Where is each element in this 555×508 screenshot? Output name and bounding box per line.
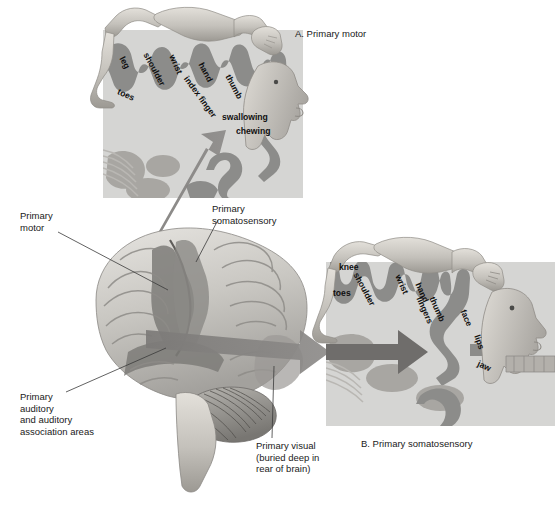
panel-a-label-swallowing: swallowing (222, 112, 268, 122)
panel-a-label-chewing: chewing (236, 126, 270, 136)
panel-b-label-knee: knee (339, 262, 359, 272)
figure-canvas: A. Primary motor B. Primary somatosensor… (0, 0, 555, 508)
panel-a-eye (274, 80, 278, 84)
panel-b-label-toes: toes (333, 288, 351, 298)
panel-b-eye (510, 306, 515, 311)
label-primary-auditory: Primary auditory and auditory associatio… (20, 391, 94, 437)
label-primary-visual: Primary visual (buried deep in rear of b… (256, 440, 319, 475)
label-primary-motor: Primary motor (20, 210, 53, 233)
panel-a-nucleus-1 (146, 155, 180, 177)
label-primary-somatosensory: Primary somatosensory (212, 203, 276, 226)
panel-a-caption: A. Primary motor (295, 28, 366, 40)
panel-b-caption: B. Primary somatosensory (361, 438, 472, 450)
panel-b-nucleus-1 (366, 364, 418, 392)
panel-b-spinal-cord (506, 356, 555, 372)
